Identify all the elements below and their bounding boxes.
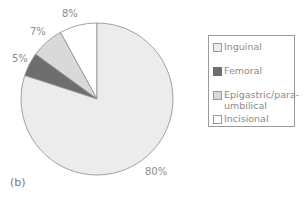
legend-item-inguinal: Inguinal	[213, 41, 262, 52]
legend-item-epigastric: Epigastric/para- umbilical	[213, 89, 299, 111]
swatch-epigastric	[213, 91, 222, 100]
swatch-incisional	[213, 115, 222, 124]
legend-label: Inguinal	[224, 41, 262, 52]
legend-label: Femoral	[224, 65, 262, 76]
label-epigastric: 7%	[30, 26, 46, 37]
legend-label: Epigastric/para- umbilical	[224, 89, 299, 111]
legend-label: Incisional	[224, 113, 269, 124]
swatch-femoral	[213, 67, 222, 76]
label-incisional: 8%	[62, 8, 78, 19]
legend-label-line-1: Epigastric/para-	[224, 89, 299, 100]
legend-item-incisional: Incisional	[213, 113, 269, 124]
legend-label-line-2: umbilical	[224, 100, 267, 111]
legend: Inguinal Femoral Epigastric/para- umbili…	[208, 35, 295, 127]
panel-label: (b)	[10, 176, 26, 189]
label-femoral: 5%	[12, 53, 28, 64]
swatch-inguinal	[213, 43, 222, 52]
legend-item-femoral: Femoral	[213, 65, 262, 76]
label-inguinal: 80%	[145, 166, 167, 177]
